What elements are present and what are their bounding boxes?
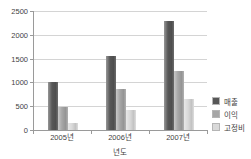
bar-2-series-2[interactable] (184, 99, 194, 130)
x-category-label: 2005년 (33, 134, 91, 142)
bar-2-series-0[interactable] (164, 21, 174, 130)
bar-gradient-overlay (48, 82, 58, 130)
legend-item-0: 매출 (212, 97, 245, 105)
legend-item-1: 이익 (212, 110, 245, 118)
bar-gradient-overlay (164, 21, 174, 130)
bar-chart: 년도 매출이익고정비 050010001500200025002005년2006… (0, 0, 251, 159)
bar-0-series-1[interactable] (58, 107, 68, 130)
x-axis-tick (207, 130, 208, 134)
gridline (33, 59, 207, 60)
bar-0-series-2[interactable] (68, 123, 78, 130)
legend-swatch (212, 110, 220, 118)
bar-0-series-0[interactable] (48, 82, 58, 130)
bar-gradient-overlay (126, 110, 136, 130)
x-axis-tick (33, 130, 34, 134)
legend-label: 이익 (224, 109, 238, 120)
bar-gradient-overlay (116, 89, 126, 130)
x-axis-tick (91, 130, 92, 134)
x-axis-line (33, 130, 208, 131)
y-axis-line (33, 11, 34, 130)
gridline (33, 35, 207, 36)
bar-1-series-0[interactable] (106, 56, 116, 130)
bar-2-series-1[interactable] (174, 71, 184, 130)
bar-gradient-overlay (58, 107, 68, 130)
legend-label: 매출 (224, 96, 238, 107)
gridline (33, 11, 207, 12)
bar-gradient-overlay (106, 56, 116, 130)
y-axis-tick-label: 2000 (2, 32, 28, 39)
y-axis-tick-label: 500 (2, 103, 28, 110)
x-category-label: 2007년 (149, 134, 207, 142)
bar-1-series-2[interactable] (126, 110, 136, 130)
legend-swatch (212, 97, 220, 105)
x-category-label: 2006년 (91, 134, 149, 142)
y-axis-tick-label: 1000 (2, 79, 28, 86)
bar-gradient-overlay (174, 71, 184, 130)
x-axis-title: 년도 (33, 146, 207, 157)
y-axis-tick-label: 2500 (2, 8, 28, 15)
legend-item-2: 고정비 (212, 123, 245, 131)
legend: 매출이익고정비 (212, 97, 245, 136)
bar-gradient-overlay (68, 123, 78, 130)
legend-swatch (212, 123, 220, 131)
x-axis-tick (149, 130, 150, 134)
y-axis-tick-label: 0 (2, 127, 28, 134)
bar-gradient-overlay (184, 99, 194, 130)
bar-1-series-1[interactable] (116, 89, 126, 130)
y-axis-tick-label: 1500 (2, 56, 28, 63)
legend-label: 고정비 (224, 122, 245, 133)
